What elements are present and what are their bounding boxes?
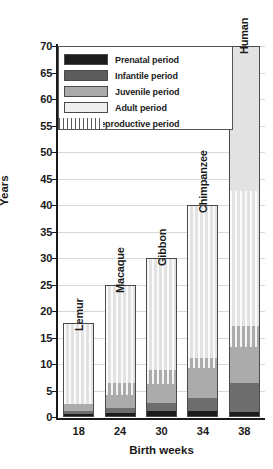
- y-tick-mark: [52, 311, 57, 312]
- y-tick-mark: [52, 232, 57, 233]
- y-tick-label: 70: [26, 40, 52, 52]
- segment-prenatal-lemur: [64, 414, 93, 416]
- bar-label-macaque: Macaque: [114, 247, 126, 293]
- y-tick-label: 0: [26, 411, 52, 423]
- x-axis-line: [56, 418, 265, 420]
- y-tick-label: 20: [26, 305, 52, 317]
- y-tick-mark: [52, 205, 57, 206]
- x-tick-label: 34: [181, 425, 225, 437]
- legend-item-prenatal: Prenatal period: [64, 52, 232, 67]
- legend-swatch-female-reproductive: [59, 118, 103, 129]
- segment-infantile-human: [230, 383, 259, 412]
- y-tick-mark: [52, 152, 57, 153]
- segment-infantile-gibbon: [147, 403, 176, 411]
- bar-lemur: [63, 323, 94, 417]
- legend-item-female-reproductive: Female reproductive period: [64, 116, 232, 131]
- chart-legend: Prenatal period Infantile period Juvenil…: [58, 46, 233, 130]
- y-tick-mark: [52, 338, 57, 339]
- y-tick-mark: [52, 285, 57, 286]
- y-axis-title: Years: [0, 175, 10, 206]
- y-tick-label: 5: [26, 385, 52, 397]
- female-reproductive-band-lemur: [64, 323, 93, 404]
- y-tick-label: 45: [26, 173, 52, 185]
- legend-label-prenatal: Prenatal period: [115, 55, 179, 65]
- segment-prenatal-gibbon: [147, 411, 176, 416]
- y-tick-mark: [52, 179, 57, 180]
- y-tick-mark: [52, 126, 57, 127]
- y-tick-label: 35: [26, 226, 52, 238]
- legend-label-juvenile: Juvenile period: [115, 87, 180, 97]
- legend-swatch-adult: [64, 102, 108, 113]
- y-tick-label: 40: [26, 199, 52, 211]
- primate-life-history-chart: Years 0510152025303540455055606570 18243…: [0, 0, 273, 469]
- segment-prenatal-chimpanzee: [188, 411, 217, 416]
- female-reproductive-band-gibbon: [147, 258, 176, 384]
- x-tick-label: 38: [222, 425, 266, 437]
- y-tick-mark: [52, 391, 57, 392]
- y-tick-label: 25: [26, 279, 52, 291]
- bar-label-human: Human: [238, 18, 250, 54]
- y-tick-label: 30: [26, 252, 52, 264]
- legend-item-juvenile: Juvenile period: [64, 84, 232, 99]
- y-tick-mark: [52, 417, 57, 418]
- legend-label-adult: Adult period: [115, 103, 167, 113]
- y-tick-label: 65: [26, 67, 52, 79]
- y-tick-label: 10: [26, 358, 52, 370]
- y-tick-label: 60: [26, 93, 52, 105]
- x-tick-label: 24: [98, 425, 142, 437]
- y-tick-mark: [52, 364, 57, 365]
- y-tick-mark: [52, 46, 57, 47]
- x-tick-label: 30: [140, 425, 184, 437]
- bar-gibbon: [146, 258, 177, 417]
- x-axis-title: Birth weeks: [58, 444, 265, 456]
- female-reproductive-band-human: [230, 191, 259, 347]
- bar-chimpanzee: [187, 205, 218, 417]
- legend-swatch-juvenile: [64, 86, 108, 97]
- segment-prenatal-macaque: [106, 413, 135, 416]
- bar-label-gibbon: Gibbon: [156, 229, 168, 266]
- y-tick-mark: [52, 99, 57, 100]
- legend-item-adult: Adult period: [64, 100, 232, 115]
- female-reproductive-band-chimpanzee: [188, 205, 217, 368]
- segment-infantile-macaque: [106, 408, 135, 413]
- legend-swatch-infantile: [64, 70, 108, 81]
- legend-swatch-prenatal: [64, 54, 108, 65]
- y-tick-label: 50: [26, 146, 52, 158]
- y-tick-label: 55: [26, 120, 52, 132]
- x-tick-label: 18: [57, 425, 101, 437]
- legend-item-infantile: Infantile period: [64, 68, 232, 83]
- y-tick-mark: [52, 258, 57, 259]
- bar-human: [229, 46, 260, 417]
- segment-juvenile-lemur: [64, 404, 93, 410]
- bar-label-lemur: Lemur: [73, 299, 85, 332]
- segment-infantile-lemur: [64, 411, 93, 415]
- bar-macaque: [105, 285, 136, 418]
- female-reproductive-band-macaque: [106, 285, 135, 395]
- y-tick-mark: [52, 73, 57, 74]
- segment-prenatal-human: [230, 412, 259, 416]
- legend-label-infantile: Infantile period: [115, 71, 178, 81]
- y-tick-label: 15: [26, 332, 52, 344]
- segment-infantile-chimpanzee: [188, 398, 217, 411]
- bar-label-chimpanzee: Chimpanzee: [197, 150, 209, 213]
